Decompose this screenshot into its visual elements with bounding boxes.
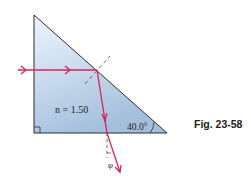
refractive-index-label: n = 1.50 xyxy=(55,104,88,115)
figure-caption: Fig. 23-58 xyxy=(194,118,242,130)
phi-label: φ xyxy=(108,160,113,170)
angle-label: 40.0° xyxy=(127,122,148,132)
prism-triangle xyxy=(34,15,167,133)
prism-diagram: n = 1.50 40.0° φ xyxy=(0,0,251,179)
